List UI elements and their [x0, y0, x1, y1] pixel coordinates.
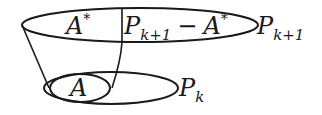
set-projection-diagram: A* Pk+1−A* Pk+1 A Pk: [0, 0, 322, 115]
divider-line: [112, 8, 122, 88]
diagram-svg: A* Pk+1−A* Pk+1 A Pk: [0, 0, 322, 115]
label-pk1-outer: Pk+1: [256, 12, 304, 44]
label-a-star: A*: [64, 11, 90, 40]
label-pk: Pk: [178, 74, 204, 106]
label-pk1-minus-a-star: Pk+1−A*: [123, 11, 228, 44]
label-a: A: [68, 74, 87, 102]
